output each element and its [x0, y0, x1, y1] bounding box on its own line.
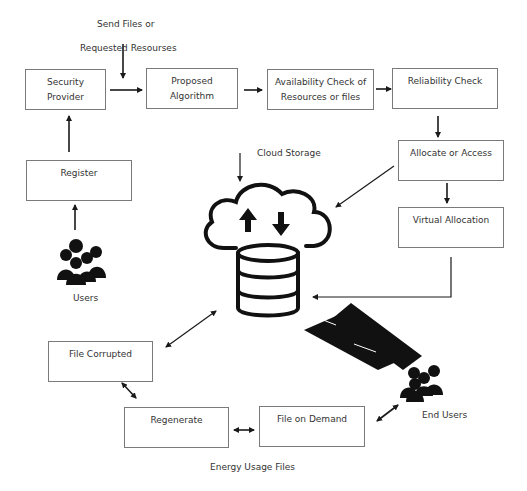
allocate-or-access-label: Allocate or Access — [399, 146, 503, 161]
register-box: Register — [26, 160, 132, 201]
file-corrupted-box: File Corrupted — [48, 341, 153, 382]
security-provider-line2: Provider — [26, 90, 105, 105]
users-label: Users — [73, 293, 98, 303]
cloud-storage-label: Cloud Storage — [257, 148, 321, 158]
virtual-allocation-box: Virtual Allocation — [398, 207, 504, 248]
cloud-storage-icon — [206, 185, 330, 316]
security-provider-box: Security Provider — [25, 69, 106, 110]
availability-check-line1: Availability Check of — [268, 75, 373, 90]
proposed-algorithm-box: Proposed Algorithm — [146, 68, 238, 109]
file-on-demand-box: File on Demand — [259, 406, 365, 447]
proposed-algorithm-line2: Algorithm — [147, 89, 237, 104]
file-corrupted-label: File Corrupted — [49, 347, 152, 362]
send-files-label: Send Files or — [97, 19, 154, 29]
reliability-check-box: Reliability Check — [392, 68, 498, 109]
security-provider-line1: Security — [26, 75, 105, 90]
proposed-algorithm-line1: Proposed — [147, 74, 237, 89]
requested-resources-label: Requested Resourses — [80, 43, 177, 53]
upload-download-arrows-icon — [239, 208, 290, 236]
end-users-label: End Users — [422, 410, 467, 420]
file-on-demand-label: File on Demand — [260, 412, 364, 427]
regenerate-box: Regenerate — [124, 407, 229, 448]
data-transfer-bars-icon — [304, 303, 422, 370]
allocate-or-access-box: Allocate or Access — [398, 140, 504, 181]
availability-check-line2: Resources or files — [268, 90, 373, 105]
reliability-check-label: Reliability Check — [393, 74, 497, 89]
energy-usage-files-label: Energy Usage Files — [210, 462, 295, 472]
virtual-allocation-label: Virtual Allocation — [399, 213, 503, 228]
register-label: Register — [27, 166, 131, 181]
users-group-icon — [57, 239, 106, 285]
availability-check-box: Availability Check of Resources or files — [267, 69, 374, 110]
end-users-group-icon — [400, 365, 443, 402]
regenerate-label: Regenerate — [125, 413, 228, 428]
